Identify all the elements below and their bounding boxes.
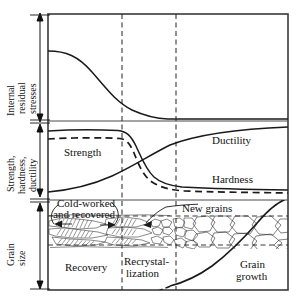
axis-label-grain-size-line1: Grain <box>6 222 16 266</box>
axis-label-internal-residual-stresses-line1: Internal <box>6 20 16 116</box>
curve-label-strength: Strength <box>64 147 101 158</box>
axis-label-strength-hardness-ductility-line3: ductility <box>28 134 38 192</box>
stage-label-grain-growth-line1: Grain <box>240 259 265 270</box>
annealing-stages-figure: Internal residual stresses Strength, har… <box>0 0 296 302</box>
stage-label-recrystallization-line2: lization <box>126 268 159 279</box>
curve-label-hardness: Hardness <box>212 174 253 185</box>
annotation-new-grains: New grains <box>182 203 232 214</box>
stage-label-grain-growth-line2: growth <box>236 271 267 282</box>
axis-label-grain-size-line2: size <box>17 226 27 266</box>
axis-label-strength-hardness-ductility-line2: hardness, <box>17 128 27 194</box>
axis-label-strength-hardness-ductility-line1: Strength, <box>6 130 16 192</box>
curve-label-ductility: Ductility <box>212 135 251 146</box>
annotation-cold-worked-line2: and recovered <box>53 209 115 220</box>
axis-label-internal-residual-stresses-line2: residual <box>17 22 27 114</box>
stage-label-recrystallization-line1: Recrystal- <box>124 256 169 267</box>
axis-label-internal-residual-stresses-line3: stresses <box>28 24 38 114</box>
stage-label-recovery: Recovery <box>65 262 107 273</box>
